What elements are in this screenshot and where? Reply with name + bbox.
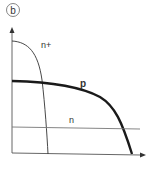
x-axis (12, 153, 141, 155)
x-axis-arrow-icon (140, 153, 146, 158)
label-n-plus: n+ (41, 40, 51, 50)
curve-n (12, 127, 140, 129)
curve-n-plus (12, 41, 48, 154)
panel-label: b (7, 4, 20, 17)
label-n: n (69, 115, 74, 125)
panel-label-text: b (10, 5, 16, 16)
diagram-figure: b n+ p n (0, 0, 153, 176)
y-axis-arrow-icon (10, 27, 15, 33)
label-p: p (80, 78, 86, 89)
